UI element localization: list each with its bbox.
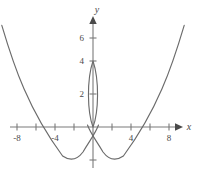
y-axis-arrow-icon: [89, 16, 96, 24]
x-tick-label--8: -8: [13, 133, 21, 143]
x-axis-arrow-icon: [175, 123, 183, 130]
y-tick-label-6: 6: [80, 33, 85, 43]
x-tick-label-4: 4: [129, 133, 134, 143]
axes-group: [10, 16, 183, 168]
y-axis-label: y: [94, 4, 100, 15]
x-tick-label--4: -4: [51, 133, 59, 143]
x-tick-label-8: 8: [167, 133, 172, 143]
coordinate-plane-svg: -8 -4 4 8 2 4 6 x y: [0, 0, 197, 182]
axis-name-labels: x y: [94, 4, 192, 132]
graph-figure: -8 -4 4 8 2 4 6 x y: [0, 0, 197, 182]
y-tick-label-2: 2: [80, 89, 85, 99]
y-tick-label-4: 4: [80, 56, 85, 66]
x-axis-label: x: [186, 121, 192, 132]
